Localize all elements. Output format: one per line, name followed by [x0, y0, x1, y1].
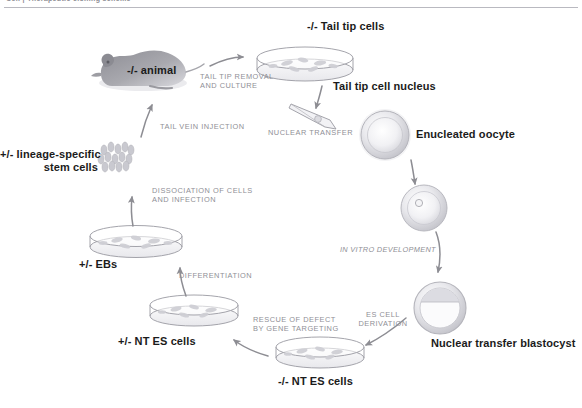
step-tail-vein-injection: TAIL VEIN INJECTION	[160, 122, 245, 131]
label-ntes-heterozygous: +/- NT ES cells	[118, 335, 196, 348]
step-nuclear-transfer: NUCLEAR TRANSFER	[268, 128, 353, 137]
petri-dish-ebs-icon	[90, 226, 182, 258]
label-tail-tip-cell-nucleus: Tail tip cell nucleus	[333, 80, 436, 93]
label-lineage-specific-line2: stem cells	[0, 161, 98, 174]
step-dissociation-line1: DISSOCIATION OF CELLS	[152, 186, 253, 195]
blastocyst-icon	[414, 282, 466, 334]
micropipette-icon	[289, 104, 336, 129]
arrow-dissociation	[131, 197, 133, 226]
step-rescue-line1: RESCUE OF DEFECT	[253, 315, 336, 324]
arrow-rescue	[234, 340, 268, 356]
reconstructed-oocyte-icon	[401, 185, 447, 231]
label-nuclear-transfer-blastocyst: Nuclear transfer blastocyst	[431, 337, 576, 350]
step-rescue-line2: BY GENE TARGETING	[253, 324, 339, 333]
step-in-vitro-development: IN VITRO DEVELOPMENT	[340, 245, 436, 254]
arrow-in-vitro-a	[411, 160, 415, 184]
label-tail-tip-cells: -/- Tail tip cells	[307, 20, 384, 33]
step-tail-removal-line2: AND CULTURE	[200, 81, 258, 90]
figure-canvas: Cell | Therapeutic cloning scheme	[0, 0, 582, 408]
label-lineage-specific-line1: +/- lineage-specific	[0, 148, 98, 161]
step-dissociation-line2: AND INFECTION	[152, 195, 216, 204]
arrow-nucleus	[316, 86, 322, 108]
label-enucleated-oocyte: Enucleated oocyte	[416, 128, 515, 141]
petri-dish-ntes-het-icon	[150, 295, 238, 326]
label-ebs: +/- EBs	[79, 258, 117, 271]
petri-dish-ntes-neg-icon	[276, 337, 364, 368]
arrow-tail-vein	[141, 105, 152, 137]
step-tail-removal-line1: TAIL TIP REMOVAL	[200, 72, 274, 81]
oocyte-icon	[359, 109, 411, 161]
step-es-derivation-line1: ES CELL	[356, 310, 410, 319]
stem-cell-cluster-icon	[98, 142, 134, 172]
step-es-derivation-line2: DERIVATION	[352, 319, 414, 328]
step-differentiation: DIFFERENTIATION	[179, 271, 252, 280]
label-animal: -/- animal	[127, 64, 176, 77]
label-ntes-negative: -/- NT ES cells	[278, 375, 353, 388]
arrow-tail-removal	[210, 57, 243, 66]
arrow-in-vitro-b	[436, 232, 440, 272]
